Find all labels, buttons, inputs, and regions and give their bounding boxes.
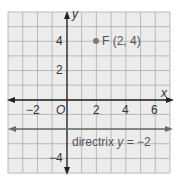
- origin-label: O: [56, 104, 65, 116]
- directrix-eq: = −2: [123, 135, 150, 149]
- tick-y-4: 4: [56, 35, 63, 47]
- focus-point: [93, 38, 99, 44]
- coordinate-plane: [0, 0, 185, 183]
- y-axis-label: y: [72, 8, 78, 20]
- focus-label: F (2, 4): [102, 35, 141, 47]
- tick-x-6: 6: [151, 104, 158, 116]
- x-axis-label: x: [161, 87, 167, 99]
- tick-y-2: 2: [56, 64, 63, 76]
- directrix-label: directrix y = −2: [72, 136, 151, 148]
- tick-x-neg2: −2: [26, 104, 40, 116]
- directrix-word: directrix: [72, 135, 117, 149]
- tick-x-2: 2: [93, 104, 100, 116]
- tick-x-4: 4: [122, 104, 129, 116]
- tick-y-neg4: −4: [49, 152, 63, 164]
